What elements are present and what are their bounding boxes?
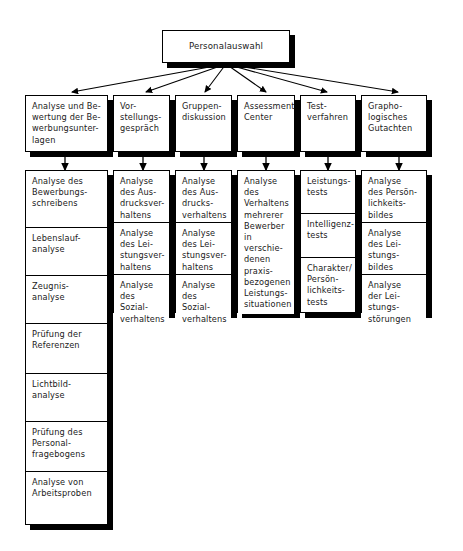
list-item[interactable]: Analyse des Sozial- verhaltens — [176, 275, 231, 329]
list-item[interactable]: Prüfung des Personal- fragebogens — [26, 422, 107, 472]
list-item[interactable]: Analyse der Lei- stungs- störungen — [362, 275, 426, 329]
item-label: Analyse der Lei- stungs- störungen — [368, 280, 411, 324]
category-node-gruppendiskussion[interactable]: Gruppen- diskussion — [175, 95, 232, 152]
list-item[interactable]: Analyse des Aus- drucksver- haltens — [114, 171, 169, 223]
category-node-graphologisches-gutachten[interactable]: Grapho- logisches Gutachten — [361, 95, 427, 152]
list-item[interactable]: Lichtbild- analyse — [26, 374, 107, 422]
connector-root-to-col3 — [205, 64, 226, 92]
item-label: Analyse des Persön- lichkeits- bildes — [368, 176, 417, 220]
item-stack-vorstellungsgespraech: Analyse des Aus- drucksver- haltens Anal… — [113, 170, 170, 313]
category-label: Test- verfahren — [307, 101, 348, 122]
item-label: Lebenslauf- analyse — [32, 233, 81, 254]
list-item[interactable]: Zeugnis- analyse — [26, 276, 107, 324]
category-node-vorstellungsgespraech[interactable]: Vor- stellungs- gespräch — [113, 95, 170, 152]
category-label: Analyse und Be- wertung der Be- werbungs… — [32, 101, 101, 145]
list-item[interactable]: Analyse des Lei- stungs- bildes — [362, 223, 426, 275]
list-item[interactable]: Analyse des Persön- lichkeits- bildes — [362, 171, 426, 223]
item-label: Analyse des Lei- stungsver- haltens — [182, 228, 227, 272]
connector-root-to-col2 — [146, 64, 226, 92]
category-node-bewerbungsunterlagen[interactable]: Analyse und Be- wertung der Be- werbungs… — [25, 95, 108, 152]
item-label: Analyse des Lei- stungs- bildes — [368, 228, 401, 272]
list-item[interactable]: Analyse des Verhaltens mehrerer Bewerber… — [238, 171, 294, 314]
connector-root-to-col5 — [226, 64, 327, 92]
connector-root-to-col1 — [72, 64, 226, 92]
item-stack-graphologisches-gutachten: Analyse des Persön- lichkeits- bildes An… — [361, 170, 427, 313]
item-label: Analyse des Verhaltens mehrerer Bewerber… — [244, 176, 292, 309]
item-label: Charakter/ Persön- lichkeits- tests — [307, 263, 352, 307]
connector-root-to-col4 — [226, 64, 266, 92]
list-item[interactable]: Analyse des Aus- drucks- verhaltens — [176, 171, 231, 223]
item-label: Analyse des Sozial- verhaltens — [120, 280, 165, 324]
item-label: Analyse des Bewerbungs- schreibens — [32, 176, 87, 208]
item-stack-testverfahren: Leistungs- tests Intelligenz- tests Char… — [300, 170, 356, 313]
item-label: Intelligenz- tests — [307, 219, 354, 240]
item-label: Analyse des Aus- drucks- verhaltens — [182, 176, 227, 220]
root-node-personalauswahl[interactable]: Personalauswahl — [162, 30, 290, 63]
category-label: Assessment Center — [244, 101, 295, 122]
item-label: Zeugnis- analyse — [32, 281, 69, 302]
list-item[interactable]: Intelligenz- tests — [301, 214, 355, 258]
item-label: Analyse des Sozial- verhaltens — [182, 280, 227, 324]
category-label: Grapho- logisches Gutachten — [368, 101, 412, 133]
list-item[interactable]: Analyse des Sozial- verhaltens — [114, 275, 169, 329]
list-item[interactable]: Prüfung der Referenzen — [26, 324, 107, 374]
item-label: Lichtbild- analyse — [32, 379, 71, 400]
item-stack-gruppendiskussion: Analyse des Aus- drucks- verhaltens Anal… — [175, 170, 232, 313]
item-stack-assessment-center: Analyse des Verhaltens mehrerer Bewerber… — [237, 170, 295, 313]
item-label: Leistungs- tests — [307, 176, 351, 197]
list-item[interactable]: Charakter/ Persön- lichkeits- tests — [301, 258, 355, 312]
item-label: Prüfung der Referenzen — [32, 329, 82, 350]
category-label: Vor- stellungs- gespräch — [120, 101, 161, 133]
item-label: Analyse des Aus- drucksver- haltens — [120, 176, 164, 220]
category-node-assessment-center[interactable]: Assessment Center — [237, 95, 295, 152]
connector-root-to-col6 — [226, 64, 398, 92]
list-item[interactable]: Analyse des Lei- stungsver- haltens — [176, 223, 231, 275]
organization-diagram: Personalauswahl Analyse und Be- wertung … — [0, 0, 463, 551]
list-item[interactable]: Leistungs- tests — [301, 171, 355, 214]
item-label: Analyse von Arbeitsproben — [32, 477, 92, 498]
category-node-testverfahren[interactable]: Test- verfahren — [300, 95, 356, 152]
list-item[interactable]: Analyse des Lei- stungsver- haltens — [114, 223, 169, 275]
item-label: Analyse des Lei- stungsver- haltens — [120, 228, 165, 272]
category-label: Gruppen- diskussion — [182, 101, 226, 122]
item-label: Prüfung des Personal- fragebogens — [32, 427, 85, 459]
list-item[interactable]: Lebenslauf- analyse — [26, 228, 107, 276]
root-node-label: Personalauswahl — [189, 41, 263, 52]
list-item[interactable]: Analyse des Bewerbungs- schreibens — [26, 171, 107, 228]
item-stack-bewerbungsunterlagen: Analyse des Bewerbungs- schreibens Leben… — [25, 170, 108, 525]
list-item[interactable]: Analyse von Arbeitsproben — [26, 472, 107, 524]
